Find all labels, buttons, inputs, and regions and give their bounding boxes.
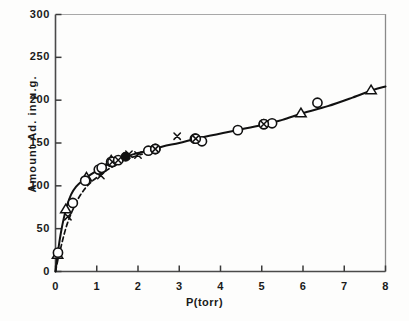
x-tick-label-6: 6 [288,280,318,292]
y-axis-title: Amount Ad. in μ.g. [26,44,38,224]
marker-series-open-circle [53,98,322,257]
x-tick-label-1: 1 [82,280,112,292]
y-tick-label-0: 0 [8,265,50,277]
x-tick-label-8: 8 [371,280,401,292]
x-tick-label-0: 0 [41,280,71,292]
x-axis-title: P(torr) [0,296,409,308]
x-tick-label-7: 7 [329,280,359,292]
y-tick-label-300: 300 [8,8,50,20]
figure-chart-adsorption-isotherm: 050100150200250300 012345678 P(torr) Amo… [0,0,409,321]
x-tick-label-4: 4 [206,280,236,292]
plot-canvas [0,0,409,321]
x-tick-label-2: 2 [123,280,153,292]
data-point-markers [52,85,376,258]
marker-series-filled-circle [121,152,130,161]
axes-frame [56,14,386,272]
x-tick-label-3: 3 [164,280,194,292]
x-tick-label-5: 5 [247,280,277,292]
axis-ticks [56,15,386,272]
fitted-curves [56,86,386,271]
marker-series-circled-cross [108,120,269,167]
curve-solid-isotherm [56,86,386,271]
